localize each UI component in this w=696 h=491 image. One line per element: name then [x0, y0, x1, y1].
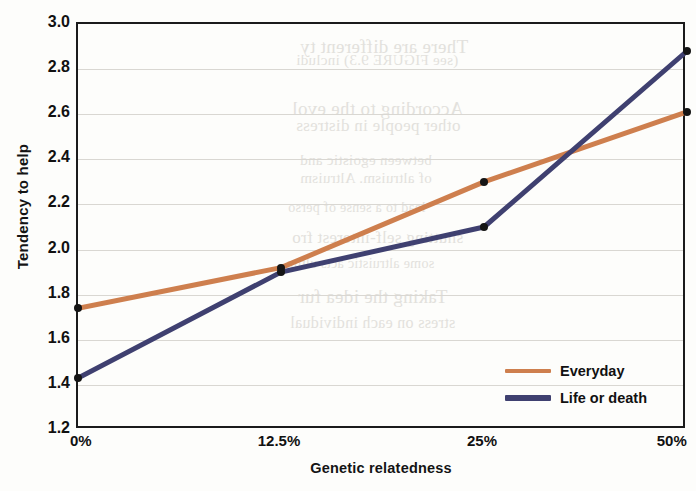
data-point-marker	[74, 374, 82, 382]
x-axis-title: Genetic relatedness	[76, 460, 686, 476]
x-axis-tick: 50%	[657, 432, 687, 449]
y-axis-tick: 2.2	[14, 193, 70, 211]
data-point-marker	[480, 223, 488, 231]
y-axis-tick: 2.8	[14, 58, 70, 76]
legend-swatch-everyday	[505, 369, 551, 373]
line-chart: Tendency to help 3.02.82.62.42.22.01.81.…	[0, 0, 696, 491]
legend-label-everyday: Everyday	[560, 363, 625, 379]
legend-item-life-or-death: Life or death	[505, 384, 647, 411]
legend-item-everyday: Everyday	[505, 357, 647, 384]
data-point-marker	[480, 178, 488, 186]
y-axis-tick: 2.4	[14, 148, 70, 166]
data-point-marker	[74, 304, 82, 312]
y-axis-tick: 1.4	[14, 374, 70, 392]
y-axis-tick: 3.0	[14, 13, 70, 31]
series-line-life-or-death	[78, 51, 687, 378]
x-axis-tick: 0%	[70, 432, 92, 449]
x-axis-tick: 12.5%	[258, 432, 301, 449]
x-axis-tick-labels: 0%12.5%25%50%	[76, 432, 685, 458]
y-axis-tick: 2.6	[14, 103, 70, 121]
data-point-marker	[683, 108, 691, 116]
y-axis-tick-labels: 3.02.82.62.42.22.01.81.61.41.2	[10, 22, 70, 428]
x-axis-tick: 25%	[467, 432, 497, 449]
legend-swatch-life-or-death	[505, 395, 551, 401]
data-point-marker	[683, 47, 691, 55]
chart-legend: Everyday Life or death	[505, 357, 647, 411]
y-axis-tick: 1.6	[14, 329, 70, 347]
series-line-everyday	[78, 112, 687, 308]
legend-label-life-or-death: Life or death	[560, 390, 647, 406]
y-axis-tick: 1.8	[14, 284, 70, 302]
y-axis-tick: 1.2	[14, 419, 70, 437]
y-axis-tick: 2.0	[14, 239, 70, 257]
data-point-marker	[277, 268, 285, 276]
